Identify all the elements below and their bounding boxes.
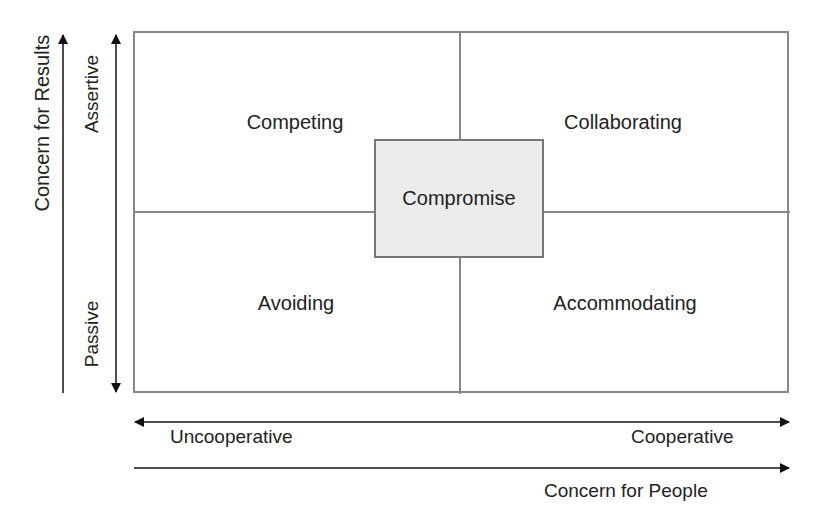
vertical-axis-title: Concern for Results: [31, 72, 54, 212]
cooperative-label: Cooperative: [631, 426, 733, 448]
quadrant-avoiding: Avoiding: [146, 292, 446, 315]
passive-label: Passive: [81, 294, 103, 374]
horizontal-axis-title: Concern for People: [544, 480, 708, 502]
uncooperative-label: Uncooperative: [170, 426, 293, 448]
quadrant-accommodating: Accommodating: [475, 292, 775, 315]
quadrant-competing: Competing: [145, 111, 445, 134]
assertive-label: Assertive: [81, 54, 103, 134]
quadrant-collaborating: Collaborating: [473, 111, 773, 134]
compromise-box: Compromise: [374, 139, 544, 258]
